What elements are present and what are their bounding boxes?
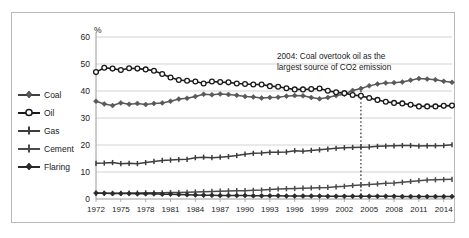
x-axis-tick-label: 2011 xyxy=(410,205,428,214)
y-axis-tick-label: 10 xyxy=(81,167,91,177)
y-axis-tick-label: 30 xyxy=(81,113,91,123)
series-line-coal xyxy=(96,79,452,106)
annotation-line-1: 2004: Coal overtook oil as the xyxy=(277,52,391,63)
x-axis-tick-label: 2005 xyxy=(360,205,378,214)
chart-figure: Coal Oil Gas xyxy=(11,12,455,223)
x-axis-tick-label: 1987 xyxy=(211,205,229,214)
x-axis-tick-label: 2002 xyxy=(335,205,353,214)
series-line-gas xyxy=(96,145,452,164)
series-markers-flaring xyxy=(94,191,455,200)
x-axis-tick-label: 1984 xyxy=(186,205,204,214)
y-axis-tick-label: 60 xyxy=(81,32,91,42)
x-axis-tick-label: 1975 xyxy=(112,205,130,214)
x-axis-tick-label: 2014 xyxy=(435,205,453,214)
x-axis-tick-label: 1996 xyxy=(286,205,304,214)
series-line-oil xyxy=(96,68,452,107)
y-axis-tick-label: 20 xyxy=(81,140,91,150)
annotation-line-2: largest source of CO2 emission xyxy=(277,63,391,74)
x-axis-tick-label: 1993 xyxy=(261,205,279,214)
x-axis-tick-label: 1972 xyxy=(87,205,105,214)
x-axis-tick-label: 1978 xyxy=(137,205,155,214)
chart-canvas: 0102030405060197219751978198119841987199… xyxy=(12,13,456,224)
series-line-cement xyxy=(96,179,452,193)
x-axis-tick-label: 1981 xyxy=(162,205,180,214)
chart-annotation: 2004: Coal overtook oil as the largest s… xyxy=(277,52,391,73)
chart-plot-container: Coal Oil Gas xyxy=(12,13,454,222)
series-line-flaring xyxy=(96,193,452,197)
x-axis-tick-label: 1990 xyxy=(236,205,254,214)
y-axis-tick-label: 40 xyxy=(81,86,91,96)
y-axis-tick-label: 50 xyxy=(81,59,91,69)
x-axis-tick-label: 1999 xyxy=(311,205,329,214)
x-axis-tick-label: 2008 xyxy=(385,205,403,214)
y-axis-tick-label: 0 xyxy=(85,194,90,204)
